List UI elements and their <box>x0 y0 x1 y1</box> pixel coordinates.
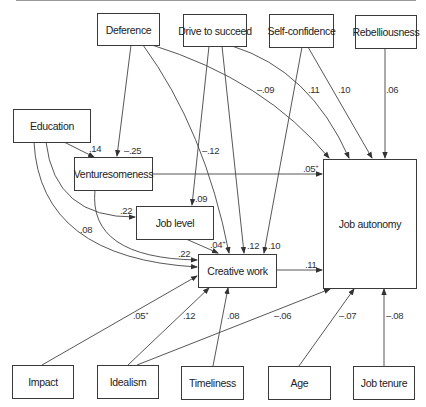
coef-deference-creativework: –.12 <box>202 145 219 156</box>
node-idealism: Idealism <box>97 365 159 399</box>
coef-venturesomeness-jobautonomy: .05+ <box>303 163 319 174</box>
node-venturesomeness: Venturesomeness <box>74 157 153 191</box>
edge-impact-creativework <box>42 276 197 365</box>
edge-idealism-jobautonomy <box>137 289 330 365</box>
edge-drive-jobautonomy <box>232 46 349 158</box>
coef-deference-venturesomeness: –.25 <box>124 145 141 156</box>
coef-idealism-creativework: .12 <box>183 310 195 321</box>
coef-creativework-jobautonomy: .11 <box>305 259 317 270</box>
edge-age-jobautonomy <box>299 289 354 366</box>
node-drive-to-succeed: Drive to succeed <box>183 14 247 47</box>
node-job-autonomy: Job autonomy <box>323 159 417 289</box>
edge-selfconfidence-creativework <box>264 47 302 253</box>
edge-drive-joblevel <box>192 46 209 205</box>
coef-selfconfidence-jobautonomy: .10 <box>338 84 350 95</box>
coef-education-creativework: .08 <box>80 224 92 235</box>
node-job-tenure: Job tenure <box>353 366 415 400</box>
node-rebelliousness: Rebelliousness <box>355 15 417 49</box>
coef-deference-jobautonomy: –.09 <box>257 84 274 95</box>
edge-selfconfidence-jobautonomy <box>308 47 372 158</box>
node-impact: Impact <box>12 365 74 399</box>
coef-joblevel-creativework: .04+ <box>210 239 226 250</box>
coef-idealism-jobautonomy: –.06 <box>274 310 291 321</box>
node-creative-work: Creative work <box>198 254 277 288</box>
coef-drive-jobautonomy: .11 <box>308 84 320 95</box>
node-job-level: Job level <box>136 206 214 240</box>
edge-deference-venturesomeness <box>117 45 131 156</box>
coef-venturesomeness-creativework: .22 <box>178 248 190 259</box>
node-age: Age <box>268 366 331 400</box>
edge-timeliness-creativework <box>213 288 228 366</box>
coef-selfconfidence-creativework: .10 <box>268 240 280 251</box>
coef-drive-creativework: .12 <box>247 240 259 251</box>
coef-drive-joblevel: .09 <box>195 193 207 204</box>
edge-idealism-creativework <box>128 288 209 365</box>
edge-deference-jobautonomy <box>152 45 329 158</box>
coef-rebelliousness-jobautonomy: .06 <box>386 84 398 95</box>
coef-jobtenure-jobautonomy: –.08 <box>386 310 403 321</box>
node-education: Education <box>13 109 91 143</box>
coef-timeliness-creativework: .08 <box>227 310 239 321</box>
coef-age-jobautonomy: –.07 <box>339 310 356 321</box>
node-timeliness: Timeliness <box>181 366 244 400</box>
node-self-confidence: Self-confidence <box>269 14 334 48</box>
edge-drive-creativework <box>222 46 244 253</box>
coef-impact-creativework: .05+ <box>133 310 149 321</box>
coef-education-venturesomeness: .14 <box>89 143 101 154</box>
node-deference: Deference <box>97 13 160 46</box>
coef-education-joblevel: .22 <box>120 205 132 216</box>
